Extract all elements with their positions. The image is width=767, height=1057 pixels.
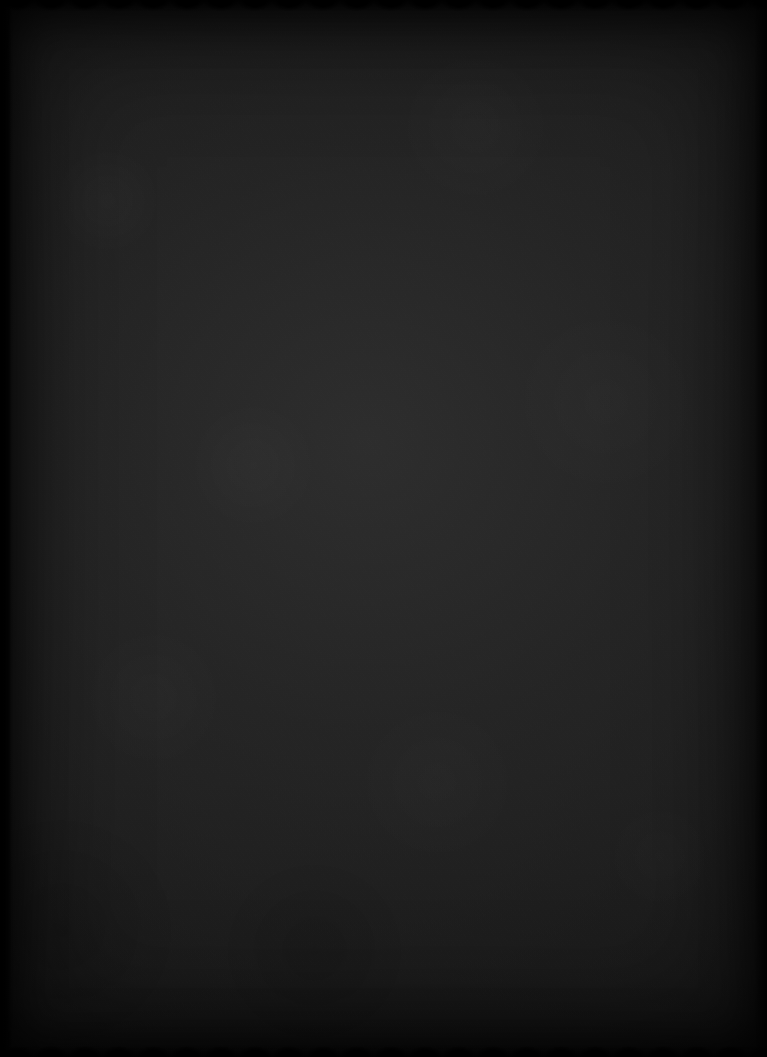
- ruled-lines-group: [0, 0, 767, 1057]
- scanned-notebook-page: [0, 0, 767, 1057]
- bottom-deckle-edge: [0, 1043, 767, 1057]
- left-perforated-edge: [0, 0, 11, 1057]
- top-deckle-edge: [0, 0, 767, 14]
